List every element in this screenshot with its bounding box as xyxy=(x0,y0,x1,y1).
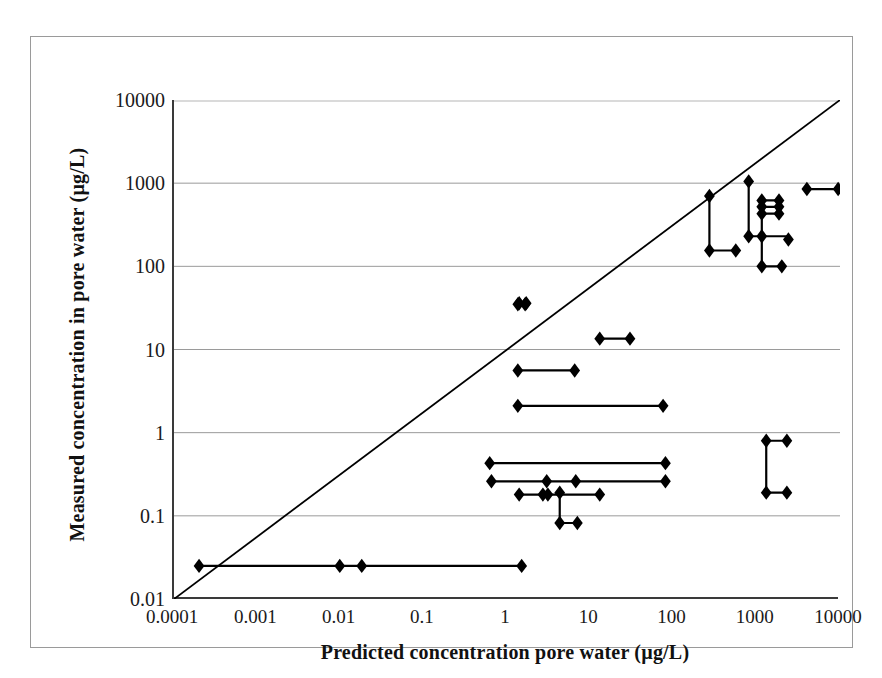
y-tick-label: 10000 xyxy=(115,89,165,112)
x-axis-tick-labels: 0.00010.0010.010.1110100100010000 xyxy=(172,606,838,636)
x-tick-label: 10 xyxy=(579,606,598,628)
y-tick-label: 1000 xyxy=(125,172,165,195)
x-tick-label: 1 xyxy=(500,606,510,628)
y-tick-label: 0.1 xyxy=(140,504,165,527)
figure-frame: 1000010001001010.10.01 0.00010.0010.010.… xyxy=(30,36,853,648)
x-tick-label: 100 xyxy=(657,606,686,628)
gridlines xyxy=(174,101,840,516)
x-tick-label: 1000 xyxy=(736,606,774,628)
x-tick-label: 10000 xyxy=(814,606,862,628)
y-axis-title: Measured concentration in pore water (µg… xyxy=(66,85,89,605)
figure-page: 1000010001001010.10.01 0.00010.0010.010.… xyxy=(0,0,882,678)
scatter-plot-canvas xyxy=(174,100,840,599)
data-point-markers xyxy=(194,174,840,573)
x-tick-label: 0.1 xyxy=(410,606,434,628)
x-tick-label: 0.0001 xyxy=(146,606,198,628)
y-tick-label: 1 xyxy=(155,421,165,444)
x-tick-label: 0.01 xyxy=(322,606,355,628)
x-axis-title: Predicted concentration pore water (µg/L… xyxy=(172,641,838,664)
y-tick-label: 10 xyxy=(145,338,165,361)
x-tick-label: 0.001 xyxy=(234,606,277,628)
y-axis-tick-labels: 1000010001001010.10.01 xyxy=(75,100,165,599)
plot-area xyxy=(172,100,838,599)
y-tick-label: 100 xyxy=(135,255,165,278)
